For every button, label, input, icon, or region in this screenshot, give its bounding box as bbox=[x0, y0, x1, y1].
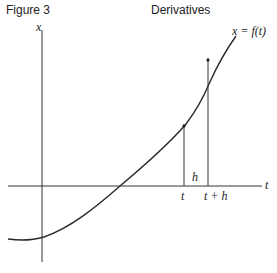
tick-label-t-plus-h: t + h bbox=[204, 189, 227, 204]
interval-h-label: h bbox=[192, 170, 198, 185]
vertical-axis-label: x bbox=[36, 20, 41, 35]
derivative-diagram bbox=[0, 0, 277, 273]
curve-label: x = f(t) bbox=[232, 24, 266, 39]
horizontal-axis-label: t bbox=[265, 178, 268, 193]
point-f-t bbox=[182, 124, 185, 127]
tick-label-t: t bbox=[181, 189, 184, 204]
point-f-t-plus-h bbox=[206, 58, 209, 61]
